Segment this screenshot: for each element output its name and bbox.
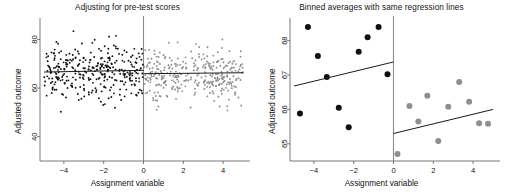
panel-right: Binned averages with same regression lin…: [254, 0, 509, 192]
svg-text:2: 2: [431, 166, 435, 175]
svg-text:−2: −2: [349, 166, 358, 175]
panel-right-plot-area: −4−202465666768: [254, 0, 509, 192]
figure-root: Adjusting for pre-test scores Adjusted o…: [0, 0, 509, 192]
svg-text:40: 40: [30, 132, 39, 140]
svg-text:0: 0: [391, 166, 395, 175]
panel-left-plot-area: −4−2024406080: [0, 0, 255, 192]
svg-text:4: 4: [471, 166, 475, 175]
svg-text:66: 66: [280, 105, 289, 113]
panel-left: Adjusting for pre-test scores Adjusted o…: [0, 0, 255, 192]
svg-text:68: 68: [280, 36, 289, 44]
svg-text:67: 67: [280, 71, 289, 79]
svg-text:−2: −2: [99, 166, 108, 175]
svg-text:60: 60: [30, 84, 39, 92]
svg-text:65: 65: [280, 140, 289, 148]
svg-text:2: 2: [181, 166, 185, 175]
svg-text:0: 0: [141, 166, 145, 175]
svg-text:−4: −4: [310, 166, 319, 175]
svg-text:−4: −4: [60, 166, 69, 175]
svg-text:4: 4: [221, 166, 225, 175]
svg-text:80: 80: [30, 35, 39, 43]
